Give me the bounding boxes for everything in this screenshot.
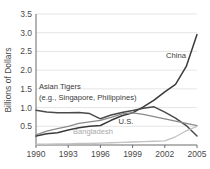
y-tick-2.5: 2.5: [20, 46, 32, 56]
y-axis-title: Billions of Dollars: [3, 47, 13, 112]
x-tick-2002: 2002: [155, 149, 174, 159]
annotation-asian-tigers-label-line2: (e.g., Singapore, Philippines): [39, 93, 137, 102]
annotation-asian-tigers-label-line1: Asian Tigers: [39, 82, 81, 91]
x-tick-labels: 199019931996199920022005: [27, 149, 207, 159]
y-tick-2.0: 2.0: [20, 65, 32, 75]
x-tick-2005: 2005: [188, 149, 207, 159]
x-tick-1990: 1990: [27, 149, 46, 159]
chart-container: 0.51.01.52.02.53.03.5 199019931996199920…: [0, 0, 210, 169]
line-chart: 0.51.01.52.02.53.03.5 199019931996199920…: [0, 0, 210, 169]
x-tick-1999: 1999: [123, 149, 142, 159]
gridlines: [36, 14, 197, 126]
x-tick-1996: 1996: [91, 149, 110, 159]
y-tick-1.5: 1.5: [20, 84, 32, 94]
annotation-china-label: China: [166, 51, 187, 60]
y-tick-labels: 0.51.01.52.02.53.03.5: [20, 9, 32, 131]
annotation-bangladesh-label: Bangladesh: [73, 127, 113, 136]
annotation-us-label: U.S.: [119, 117, 134, 126]
y-tick-1.0: 1.0: [20, 103, 32, 113]
y-tick-3.0: 3.0: [20, 28, 32, 38]
annotations-group: ChinaAsian Tigers(e.g., Singapore, Phili…: [39, 51, 187, 136]
x-tick-1993: 1993: [59, 149, 78, 159]
series-line-bangladesh: [36, 126, 197, 144]
y-tick-0.5: 0.5: [20, 121, 32, 131]
y-tick-3.5: 3.5: [20, 9, 32, 19]
